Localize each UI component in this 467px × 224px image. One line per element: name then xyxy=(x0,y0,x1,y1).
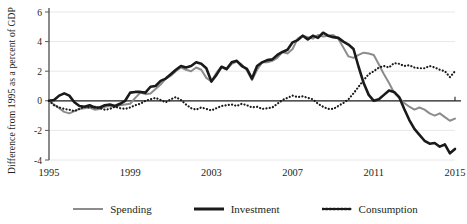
legend-label-investment: Investment xyxy=(231,203,280,215)
legend-item-spending: Spending xyxy=(73,203,152,215)
gridlines xyxy=(49,12,455,160)
x-axis-tick-labels: 199519992003200720112015 xyxy=(39,167,466,178)
plot-area: 6420-2-4 199519992003200720112015 xyxy=(24,0,467,186)
y-axis-title: Difference from 1995 as a percent of GDP xyxy=(0,0,24,180)
x-tick-label: 2011 xyxy=(364,167,384,178)
chart-legend: Spending Investment Consumption xyxy=(24,186,467,224)
y-tick-label: 4 xyxy=(37,36,42,47)
legend-label-spending: Spending xyxy=(110,203,152,215)
y-tick-label: 0 xyxy=(37,95,42,106)
x-tick-label: 1995 xyxy=(39,167,60,178)
legend-item-investment: Investment xyxy=(194,203,280,215)
series-line-investment xyxy=(49,33,455,154)
legend-label-consumption: Consumption xyxy=(359,203,418,215)
x-tick-label: 2007 xyxy=(282,167,303,178)
y-tick-label: 2 xyxy=(37,66,42,77)
legend-swatch-investment xyxy=(194,204,224,214)
legend-swatch-spending xyxy=(73,204,103,214)
x-tick-label: 2003 xyxy=(201,167,222,178)
legend-item-consumption: Consumption xyxy=(322,203,418,215)
y-axis-tick-labels: 6420-2-4 xyxy=(34,7,49,166)
y-tick-label: -2 xyxy=(34,125,42,136)
legend-swatch-consumption xyxy=(322,204,352,214)
chart-figure: Difference from 1995 as a percent of GDP… xyxy=(0,0,467,224)
x-tick-label: 1999 xyxy=(120,167,141,178)
y-axis-title-text: Difference from 1995 as a percent of GDP xyxy=(7,6,18,173)
x-tick-label: 2015 xyxy=(445,167,466,178)
y-tick-label: -4 xyxy=(34,155,42,166)
y-tick-label: 6 xyxy=(37,7,42,18)
line-chart-svg: 6420-2-4 199519992003200720112015 xyxy=(24,0,467,186)
data-series xyxy=(49,33,455,154)
